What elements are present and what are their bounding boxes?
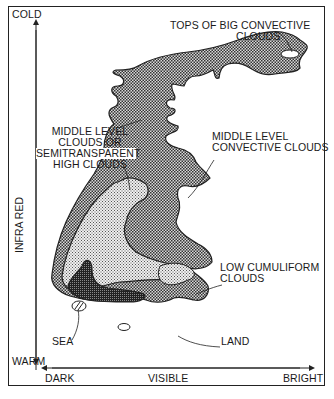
land-label: LAND [221,336,249,347]
tops-patch [281,50,299,58]
axis-top-label: COLD [12,9,42,20]
mid-conv-label-line2: CONVECTIVE CLOUDS [212,142,329,153]
cloud-scatter-diagram [0,0,334,399]
axis-right-label: BRIGHT [283,373,323,384]
sea-white-patch [72,301,86,311]
axis-left-label: DARK [45,373,75,384]
sea-label: SEA [52,336,73,347]
tops-label-line2: CLOUDS [236,31,280,42]
y-axis-label: INFRA RED [13,197,25,253]
figure-caption [4,390,330,399]
x-axis-label: VISIBLE [148,373,188,384]
mid-semi-label-line4: HIGH CLOUDS [50,159,130,170]
land-patch [118,324,130,331]
low-cum-label-line2: CLOUDS [220,273,264,284]
axis-bottom-label: WARM [12,356,45,367]
